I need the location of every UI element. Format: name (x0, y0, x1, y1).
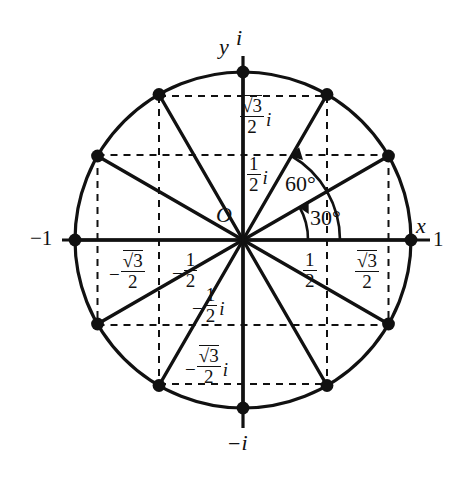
angle-label-60: 60° (285, 173, 316, 195)
ytick-label-negative-half-i: − 1 2 i (192, 285, 225, 326)
ytick-label-half-i: 1 2 i (247, 154, 268, 195)
xtick-label-negative-half: − 1 2 (172, 250, 197, 291)
xtick-label-negative-root3-over-2: − √3 2 (109, 250, 145, 292)
x-axis-tick-negative-one: −1 (30, 228, 52, 249)
y-axis-tick-negative-i: −i (228, 432, 248, 455)
figure-canvas: y i x 1 −1 −i O 60° 30° √3 2 i 1 2 i − 1… (0, 0, 471, 478)
xtick-label-half: 1 2 (303, 250, 317, 291)
origin-label: O (216, 204, 232, 226)
ytick-label-negative-root3-over-2-i: − √3 2 i (185, 345, 228, 387)
x-axis-tick-one: 1 (433, 229, 444, 250)
y-axis-tick-i: i (236, 27, 242, 49)
unit-circle-diagram (0, 0, 471, 478)
x-axis-label: x (416, 215, 426, 237)
thirty-degree-arc (300, 202, 309, 240)
y-axis-label: y (219, 36, 229, 58)
angle-label-30: 30° (310, 207, 341, 229)
ytick-label-root3-over-2-i: √3 2 i (240, 95, 271, 137)
xtick-label-root3-over-2: √3 2 (355, 250, 379, 292)
